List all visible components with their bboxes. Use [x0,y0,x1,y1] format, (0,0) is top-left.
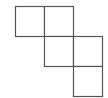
diagram-canvas [0,0,108,98]
square-cell-3 [45,37,74,67]
square-cell-5 [74,67,103,97]
square-cell-1 [16,7,45,37]
square-net-diagram [0,0,108,98]
square-cell-4 [74,37,103,67]
square-cell-2 [45,7,74,37]
